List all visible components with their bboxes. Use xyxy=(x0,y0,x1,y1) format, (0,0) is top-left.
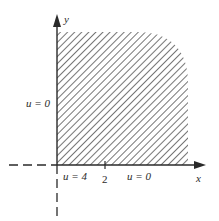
shaded-region xyxy=(57,32,189,166)
bottom-far-boundary-label: u = 0 xyxy=(127,170,151,182)
y-axis-label: y xyxy=(63,13,69,25)
y-axis-arrow-icon xyxy=(53,14,61,27)
x-axis-arrow-icon xyxy=(194,161,206,169)
left-boundary-label: u = 0 xyxy=(26,97,50,109)
x-tick-label: 2 xyxy=(102,173,108,185)
bottom-near-boundary-label: u = 4 xyxy=(63,170,87,182)
x-axis-label: x xyxy=(195,172,201,184)
diagram-canvas: y x u = 0 u = 4 2 u = 0 xyxy=(0,0,219,221)
